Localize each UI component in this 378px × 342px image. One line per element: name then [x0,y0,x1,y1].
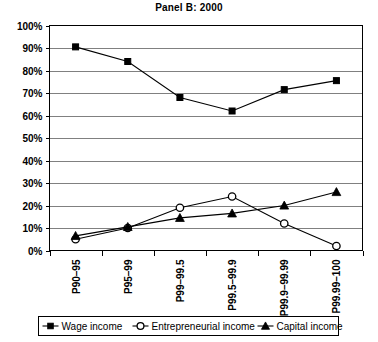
marker-filled-square [229,108,235,114]
marker-filled-square [48,323,54,329]
marker-filled-square [73,44,79,50]
marker-filled-square [333,78,339,84]
y-tick-label: 10% [22,223,42,234]
y-tick-label: 90% [22,43,42,54]
marker-open-circle [176,204,183,211]
x-tick-label: P99.5–99.9 [227,259,238,311]
marker-filled-square [177,95,183,101]
y-tick-label: 0% [28,246,43,257]
y-axis-labels: 0%10%20%30%40%50%60%70%80%90%100% [17,21,43,257]
marker-open-circle [281,220,288,227]
x-axis-ticks [51,251,364,256]
marker-filled-square [281,87,287,93]
chart-legend: Wage incomeEntrepreneurial incomeCapital… [39,317,344,336]
y-tick-label: 100% [17,21,43,32]
x-tick-label: P90–95 [71,259,82,294]
series-wage-income [73,44,340,114]
y-tick-label: 30% [22,178,42,189]
legend-label: Capital income [277,321,344,332]
gridlines [50,49,363,229]
marker-open-circle [228,193,235,200]
y-tick-label: 20% [22,201,42,212]
y-tick-label: 40% [22,156,42,167]
y-tick-label: 70% [22,88,42,99]
y-tick-label: 50% [22,133,42,144]
x-tick-label: P99–99.5 [175,259,186,302]
data-series [71,44,341,250]
chart-container: Panel B: 2000 0%10%20%30%40%50%60%70%80%… [0,0,378,342]
marker-filled-square [125,59,131,65]
legend-label: Entrepreneurial income [152,321,256,332]
legend-label: Wage income [62,321,123,332]
x-tick-label: P99.9–99.99 [279,259,290,316]
y-tick-label: 60% [22,111,42,122]
y-axis-ticks [46,27,50,252]
x-axis-labels: P90–95P95–99P99–99.5P99.5–99.9P99.9–99.9… [71,259,343,316]
legend-item-entrepreneurial-income: Entrepreneurial income [133,321,256,332]
marker-open-circle [137,323,144,330]
marker-filled-triangle [332,188,341,196]
marker-open-circle [333,242,340,249]
y-tick-label: 80% [22,66,42,77]
x-tick-label: P95–99 [123,259,134,294]
x-tick-label: P99.99–100 [331,259,342,313]
chart-plot: 0%10%20%30%40%50%60%70%80%90%100% P90–95… [0,0,378,342]
